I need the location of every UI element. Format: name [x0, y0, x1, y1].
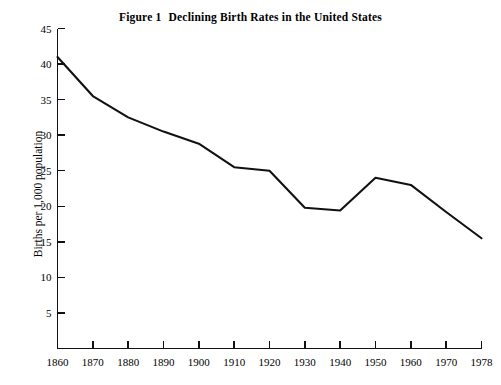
x-axis-tick-label: 1910: [223, 356, 246, 368]
axis-lines: [58, 29, 482, 349]
y-axis-tick-group: 51015202530354045: [41, 23, 65, 319]
x-axis-tick-label: 1860: [47, 356, 70, 368]
x-axis-tick-label: 1940: [329, 356, 352, 368]
y-axis-tick-label: 35: [41, 94, 53, 106]
y-axis-tick-label: 40: [41, 58, 53, 70]
y-axis-tick-label: 5: [46, 307, 52, 319]
x-axis-tick-label: 1870: [82, 356, 105, 368]
y-axis-tick-label: 20: [41, 200, 53, 212]
x-axis-tick-label: 1978: [471, 356, 494, 368]
x-axis-tick-label: 1890: [153, 356, 176, 368]
figure-container: Figure 1Declining Birth Rates in the Uni…: [0, 0, 501, 385]
y-axis-tick-label: 15: [41, 236, 53, 248]
x-axis-tick-label: 1930: [294, 356, 317, 368]
x-axis-tick-label: 1900: [188, 356, 211, 368]
x-axis-tick-group: 1860187018801890190019101920193019401950…: [47, 341, 494, 368]
x-axis-tick-label: 1960: [400, 356, 423, 368]
birth-rate-line: [58, 57, 482, 238]
x-axis-tick-label: 1880: [117, 356, 140, 368]
y-axis-tick-label: 30: [41, 129, 53, 141]
y-axis-tick-label: 10: [41, 271, 53, 283]
y-axis-tick-label: 45: [41, 23, 53, 35]
x-axis-tick-label: 1970: [435, 356, 458, 368]
line-chart-plot: 51015202530354045 1860187018801890190019…: [0, 0, 501, 385]
x-axis-tick-label: 1950: [365, 356, 388, 368]
x-axis-tick-label: 1920: [259, 356, 282, 368]
y-axis-tick-label: 25: [41, 165, 53, 177]
